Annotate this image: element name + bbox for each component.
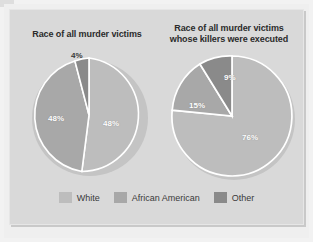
legend-swatch-african-american bbox=[114, 192, 127, 203]
legend-label-other: Other bbox=[232, 193, 255, 203]
legend: White African American Other bbox=[9, 192, 304, 203]
pie-left-label-white: 48% bbox=[103, 119, 119, 128]
legend-item-white[interactable]: White bbox=[59, 192, 100, 203]
chart-title-right-line1: Race of all murder victims bbox=[174, 23, 283, 33]
chart-title-left: Race of all murder victims bbox=[15, 29, 159, 40]
legend-label-white: White bbox=[77, 193, 100, 203]
legend-label-african-american: African American bbox=[132, 193, 200, 203]
pie-chart-right: 9% 15% 76% bbox=[169, 53, 297, 181]
legend-item-african-american[interactable]: African American bbox=[114, 192, 200, 203]
pie-left-label-african-american: 48% bbox=[48, 114, 64, 123]
figure-container: Race of all murder victims Race of all m… bbox=[0, 0, 313, 242]
legend-swatch-white bbox=[59, 192, 72, 203]
chart-titles: Race of all murder victims Race of all m… bbox=[9, 23, 304, 57]
legend-swatch-other bbox=[214, 192, 227, 203]
pie-right-label-other: 9% bbox=[224, 73, 236, 82]
chart-title-right-line2: whose killers were executed bbox=[170, 34, 288, 44]
legend-item-other[interactable]: Other bbox=[214, 192, 255, 203]
pie-right-label-white: 76% bbox=[242, 133, 258, 142]
chart-title-right: Race of all murder victims whose killers… bbox=[157, 23, 301, 45]
pie-chart-left: 4% 48% 48% bbox=[31, 57, 151, 177]
chart-panel: Race of all murder victims Race of all m… bbox=[9, 9, 304, 225]
pie-left-label-other: 4% bbox=[71, 51, 83, 60]
pie-right-label-african-american: 15% bbox=[189, 101, 205, 110]
